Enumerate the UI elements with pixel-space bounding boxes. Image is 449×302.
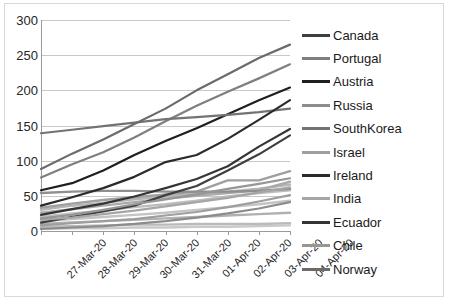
legend-swatch-icon xyxy=(302,57,330,60)
legend-swatch-icon xyxy=(302,34,330,37)
series-line xyxy=(41,64,290,177)
legend-label: Chile xyxy=(333,239,363,252)
legend-label: Canada xyxy=(333,29,379,42)
legend-label: Ecuador xyxy=(333,216,381,229)
y-axis-tick-label: 0 xyxy=(4,225,38,238)
legend-swatch-icon xyxy=(302,174,330,177)
y-axis-tick-label: 100 xyxy=(4,154,38,167)
legend-item-chile[interactable]: Chile xyxy=(302,239,363,253)
legend-swatch-icon xyxy=(302,127,330,130)
series-lines xyxy=(41,20,290,231)
legend-label: India xyxy=(333,192,361,205)
legend-item-austria[interactable]: Austria xyxy=(302,75,373,89)
legend-swatch-icon xyxy=(302,197,330,200)
legend-label: Portugal xyxy=(333,52,381,65)
x-axis: 27-Mar-2028-Mar-2029-Mar-2030-Mar-2031-M… xyxy=(41,235,301,297)
series-line xyxy=(41,88,290,191)
y-axis-tick-label: 200 xyxy=(4,84,38,97)
legend-item-india[interactable]: India xyxy=(302,192,361,206)
legend-item-russia[interactable]: Russia xyxy=(302,98,373,112)
plot-area xyxy=(41,20,290,231)
legend-swatch-icon xyxy=(302,244,330,247)
y-axis-tick-label: 150 xyxy=(4,119,38,132)
legend-swatch-icon xyxy=(302,268,330,271)
legend-item-portugal[interactable]: Portugal xyxy=(302,51,381,65)
y-axis-tick-label: 50 xyxy=(4,189,38,202)
legend-item-canada[interactable]: Canada xyxy=(302,28,379,42)
chart-legend: CanadaPortugalAustriaRussiaSouthKoreaIsr… xyxy=(302,28,440,286)
legend-item-ireland[interactable]: Ireland xyxy=(302,168,373,182)
legend-label: SouthKorea xyxy=(333,122,402,135)
chart-frame: 050100150200250300 27-Mar-2028-Mar-2029-… xyxy=(4,3,444,297)
y-axis: 050100150200250300 xyxy=(5,4,38,298)
legend-swatch-icon xyxy=(302,221,330,224)
legend-swatch-icon xyxy=(302,104,330,107)
legend-item-israel[interactable]: Israel xyxy=(302,145,365,159)
legend-item-southkorea[interactable]: SouthKorea xyxy=(302,122,402,136)
legend-label: Austria xyxy=(333,75,373,88)
legend-label: Ireland xyxy=(333,169,373,182)
legend-item-norway[interactable]: Norway xyxy=(302,262,377,276)
chart-plot-wrapper: 050100150200250300 27-Mar-2028-Mar-2029-… xyxy=(5,4,445,298)
legend-label: Norway xyxy=(333,263,377,276)
legend-swatch-icon xyxy=(302,151,330,154)
y-axis-tick-label: 300 xyxy=(4,14,38,27)
legend-label: Israel xyxy=(333,146,365,159)
y-axis-tick-label: 250 xyxy=(4,49,38,62)
legend-label: Russia xyxy=(333,99,373,112)
legend-swatch-icon xyxy=(302,80,330,83)
legend-item-ecuador[interactable]: Ecuador xyxy=(302,215,381,229)
